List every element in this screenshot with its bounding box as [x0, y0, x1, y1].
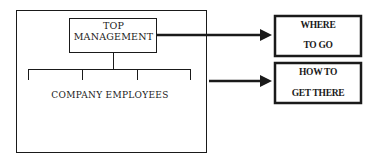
top-management-line2: MANAGEMENT	[70, 31, 157, 42]
top-management-line1: TOP	[70, 20, 157, 31]
how-label-line2: GET THERE	[274, 88, 362, 98]
top-management-label: TOP MANAGEMENT	[70, 20, 157, 42]
how-label-line1: HOW TO	[274, 67, 362, 77]
arrow-to-where	[157, 29, 272, 41]
company-employees-label: COMPANY EMPLOYEES	[40, 90, 180, 100]
where-label-line1: WHERE	[274, 20, 362, 30]
arrow-to-how	[209, 75, 272, 87]
org-tree-connector	[28, 53, 191, 80]
where-label-line2: TO GO	[274, 40, 362, 50]
